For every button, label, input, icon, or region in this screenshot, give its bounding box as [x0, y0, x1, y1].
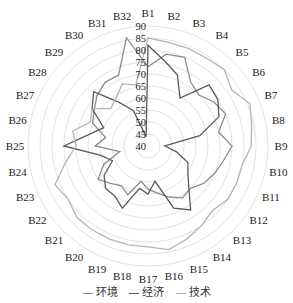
spoke-label: B6: [252, 66, 265, 78]
legend: 环境 经济 技术: [0, 283, 293, 299]
legend-item-environment: 环境: [83, 283, 118, 299]
radar-chart: 4045505560657075808590 B1B2B3B4B5B6B7B8B…: [0, 0, 293, 303]
spoke-label: B12: [249, 214, 267, 226]
spoke-label: B5: [236, 46, 249, 58]
spoke-label: B3: [192, 17, 205, 29]
spoke-label: B10: [269, 166, 288, 178]
legend-label: 经济: [142, 286, 164, 299]
legend-item-technology: 技术: [176, 283, 211, 299]
tick-label: 55: [136, 105, 147, 116]
spoke-label: B27: [16, 89, 35, 101]
spoke-label: B15: [190, 263, 209, 275]
tick-label: 75: [136, 57, 147, 68]
spoke-label: B11: [262, 191, 280, 203]
spoke-label: B21: [45, 234, 63, 246]
spoke-label: B2: [167, 10, 180, 22]
spoke-label: B4: [215, 29, 228, 41]
tick-label: 40: [136, 141, 147, 152]
spoke-label: B14: [213, 251, 232, 263]
spoke-label: B23: [16, 191, 35, 203]
grid-ring: [64, 62, 232, 230]
grid-ring: [52, 50, 244, 242]
spoke-label: B9: [275, 140, 288, 152]
tick-label: 60: [136, 93, 147, 104]
legend-swatch-environment: [83, 293, 93, 294]
spoke-label: B24: [8, 166, 27, 178]
tick-label: 85: [136, 33, 147, 44]
spoke-label: B20: [65, 251, 84, 263]
grid-ring: [112, 110, 184, 182]
spoke-label: B19: [88, 263, 107, 275]
tick-label: 65: [136, 81, 147, 92]
spoke-label: B25: [6, 140, 25, 152]
legend-swatch-economy: [129, 293, 139, 294]
tick-label: 80: [136, 45, 147, 56]
spoke-label: B26: [8, 114, 27, 126]
spoke-label: B8: [272, 114, 285, 126]
spoke-label: B22: [28, 214, 46, 226]
spoke-label: B1: [142, 7, 155, 19]
grid-ring: [100, 98, 196, 194]
spoke-label: B32: [113, 10, 131, 22]
spoke-label: B29: [45, 46, 64, 58]
legend-swatch-technology: [176, 293, 186, 294]
tick-label: 50: [136, 117, 147, 128]
spoke-label: B13: [233, 234, 252, 246]
tick-label: 70: [136, 69, 147, 80]
tick-label: 90: [136, 21, 147, 32]
spoke-labels: B1B2B3B4B5B6B7B8B9B10B11B12B13B14B15B16B…: [6, 7, 288, 285]
spoke-label: B30: [65, 29, 84, 41]
spoke-label: B31: [88, 17, 106, 29]
spoke-label: B16: [165, 270, 184, 282]
legend-item-economy: 经济: [129, 283, 164, 299]
radial-tick-labels: 4045505560657075808590: [136, 21, 147, 152]
spoke-label: B18: [113, 270, 132, 282]
spoke-label: B28: [28, 66, 47, 78]
spoke-label: B7: [264, 89, 277, 101]
legend-label: 环境: [96, 286, 118, 299]
legend-label: 技术: [189, 286, 211, 299]
tick-label: 45: [136, 129, 147, 140]
